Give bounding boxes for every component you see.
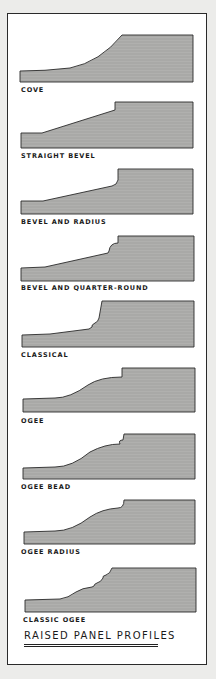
profile-ogee-bead-shape (23, 434, 195, 479)
title-underline (24, 644, 158, 647)
profile-label-bevel-quarter-round: BEVEL AND QUARTER-ROUND (21, 284, 149, 292)
profile-label-bevel-and-radius: BEVEL AND RADIUS (21, 218, 107, 226)
profile-label-cove: COVE (21, 86, 44, 94)
profile-label-straight-bevel: STRAIGHT BEVEL (21, 152, 96, 160)
profile-ogee-shape (23, 368, 195, 412)
profile-bevel-and-radius-shape (21, 169, 193, 214)
profile-classic-ogee-shape (25, 568, 196, 612)
profile-label-ogee-radius: OGEE RADIUS (21, 548, 81, 556)
drawing-title: RAISED PANEL PROFILES (24, 630, 176, 642)
profile-classical-shape (22, 301, 194, 347)
profile-bevel-quarter-round-shape (21, 236, 194, 281)
profile-cove-shape (20, 35, 193, 82)
profiles-drawing (0, 0, 216, 679)
profile-straight-bevel-shape (21, 102, 193, 148)
profile-label-ogee: OGEE (21, 417, 44, 425)
profile-label-ogee-bead: OGEE BEAD (21, 483, 71, 491)
profile-ogee-radius-shape (24, 500, 195, 544)
profile-label-classical: CLASSICAL (21, 351, 68, 359)
profile-label-classic-ogee: CLASSIC OGEE (23, 616, 86, 624)
